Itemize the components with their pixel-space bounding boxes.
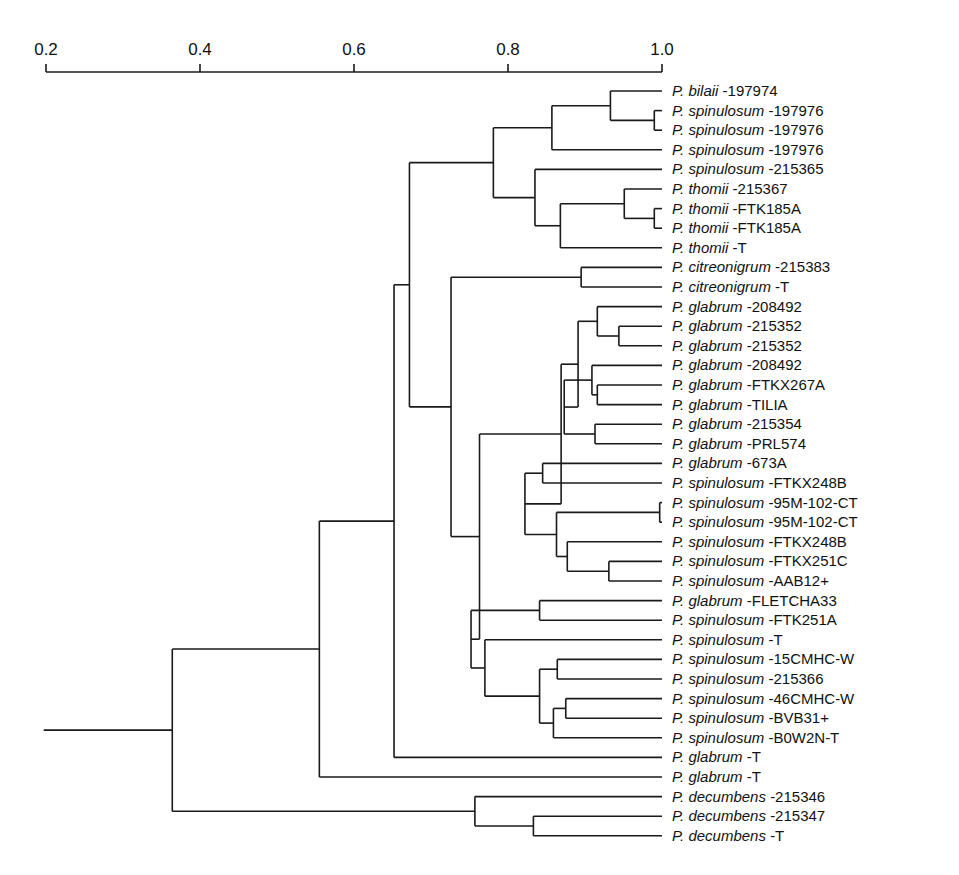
axis-tick-label: 0.2 [34,40,58,59]
leaf-label: P. spinulosum -215365 [672,160,824,177]
leaf-label: P. decumbens -215346 [672,788,825,805]
leaf-label: P. glabrum -208492 [672,356,802,373]
leaf-label: P. glabrum -T [672,748,761,765]
axis-tick-label: 1.0 [650,40,674,59]
leaf-label: P. glabrum -215352 [672,337,802,354]
leaf-label: P. glabrum -FLETCHA33 [672,592,837,609]
dendrogram: 0.20.40.60.81.0 P. bilaii -197974P. spin… [0,0,959,875]
leaf-label: P. thomii -215367 [672,180,788,197]
axis-tick-label: 0.4 [188,40,212,59]
leaf-label: P. decumbens -T [672,827,784,844]
leaf-label: P. spinulosum -FTKX251C [672,552,848,569]
axis-tick-label: 0.8 [496,40,520,59]
leaf-label: P. spinulosum -215366 [672,670,824,687]
leaf-label: P. glabrum -215354 [672,415,802,432]
leaf-label: P. spinulosum -197976 [672,141,824,158]
leaf-label: P. decumbens -215347 [672,807,825,824]
leaf-label: P. citreonigrum -T [672,278,789,295]
leaf-label: P. thomii -FTK185A [672,200,801,217]
leaf-label: P. glabrum -FTKX267A [672,376,825,393]
leaf-label: P. spinulosum -197976 [672,121,824,138]
axis-tick-label: 0.6 [342,40,366,59]
leaf-label: P. citreonigrum -215383 [672,258,830,275]
dendrogram-branches [44,91,662,836]
leaf-label: P. spinulosum -46CMHC-W [672,690,855,707]
leaf-label: P. thomii -FTK185A [672,219,801,236]
leaf-label: P. spinulosum -197976 [672,102,824,119]
leaf-label: P. bilaii -197974 [672,82,778,99]
leaf-label: P. spinulosum -15CMHC-W [672,650,855,667]
leaf-label: P. spinulosum -95M-102-CT [672,494,858,511]
similarity-axis: 0.20.40.60.81.0 [34,40,674,72]
leaf-label: P. thomii -T [672,239,747,256]
leaf-label: P. glabrum -TILIA [672,396,788,413]
leaf-label: P. glabrum -T [672,768,761,785]
leaf-labels: P. bilaii -197974P. spinulosum -197976P.… [672,82,858,844]
leaf-label: P. spinulosum -95M-102-CT [672,513,858,530]
leaf-label: P. glabrum -215352 [672,317,802,334]
leaf-label: P. spinulosum -AAB12+ [672,572,829,589]
leaf-label: P. spinulosum -B0W2N-T [672,729,839,746]
leaf-label: P. spinulosum -FTK251A [672,611,837,628]
leaf-label: P. glabrum -208492 [672,298,802,315]
leaf-label: P. glabrum -PRL574 [672,435,806,452]
leaf-label: P. spinulosum -BVB31+ [672,709,829,726]
leaf-label: P. spinulosum -FTKX248B [672,533,847,550]
leaf-label: P. glabrum -673A [672,454,787,471]
leaf-label: P. spinulosum -T [672,631,783,648]
leaf-label: P. spinulosum -FTKX248B [672,474,847,491]
